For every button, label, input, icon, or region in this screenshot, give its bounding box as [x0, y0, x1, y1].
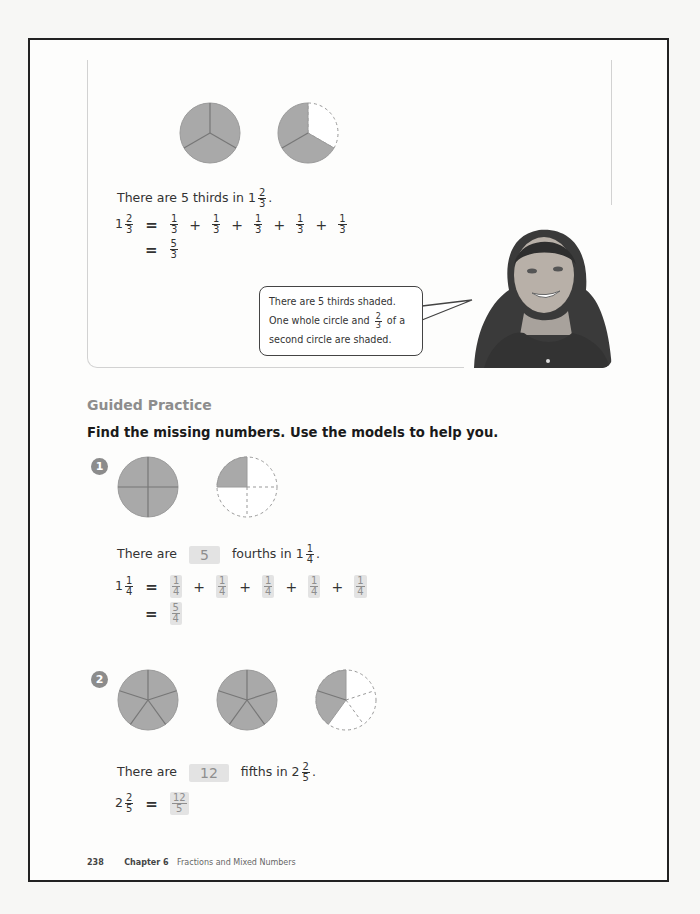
problem-1-equation-sum: 114 = 14 + 14 + 14 + 14 + 14 [115, 575, 369, 598]
answer-fraction[interactable]: 14 [262, 575, 274, 598]
speech-line-1: There are 5 thirds shaded. [269, 292, 422, 311]
answer-box[interactable]: 5 [189, 546, 220, 564]
speech-bubble-tail [420, 298, 475, 328]
answer-fraction[interactable]: 14 [216, 575, 228, 598]
example-equation-sum: 123 = 13 + 13 + 13 + 13 + 13 [115, 214, 349, 235]
problem-1-statement: There are 5 fourths in 114. [117, 544, 320, 565]
answer-fraction[interactable]: 14 [354, 575, 366, 598]
circle-model-fifths-full-2 [215, 668, 279, 732]
speech-line-3: second circle are shaded. [269, 330, 422, 349]
chapter-label: Chapter 6 [124, 858, 168, 867]
answer-fraction[interactable]: 125 [170, 792, 189, 815]
circle-model-fifths-full-1 [116, 668, 180, 732]
circle-model-fourths-partial [215, 455, 279, 519]
page-number: 238 [87, 858, 104, 867]
circle-model-fifths-partial [314, 668, 378, 732]
example-statement: There are 5 thirds in 123. [117, 188, 272, 209]
example-equation-result: = 53 [139, 239, 180, 260]
answer-fraction[interactable]: 14 [308, 575, 320, 598]
answer-fraction[interactable]: 14 [170, 575, 182, 598]
section-title: Guided Practice [87, 397, 212, 413]
girl-portrait-icon [464, 205, 612, 368]
circle-model-fourths-full [116, 455, 180, 519]
chapter-title: Fractions and Mixed Numbers [177, 858, 296, 867]
speech-line-2: One whole circle and 23 of a [269, 311, 422, 330]
answer-box[interactable]: 12 [189, 764, 229, 782]
answer-fraction[interactable]: 54 [170, 602, 182, 625]
problem-2-statement: There are 12 fifths in 225. [117, 762, 316, 783]
problem-2-equation: 225 = 125 [115, 792, 191, 815]
problem-number-badge-1: 1 [91, 458, 108, 475]
problem-1-equation-result: = 54 [139, 602, 184, 625]
circle-model-thirds-partial [276, 101, 340, 165]
circle-model-thirds-full [178, 101, 242, 165]
student-photo [464, 205, 612, 368]
instruction: Find the missing numbers. Use the models… [87, 425, 498, 440]
problem-number-badge-2: 2 [91, 671, 108, 688]
page-footer: 238 Chapter 6 Fractions and Mixed Number… [87, 858, 296, 867]
speech-bubble: There are 5 thirds shaded. One whole cir… [259, 286, 423, 356]
